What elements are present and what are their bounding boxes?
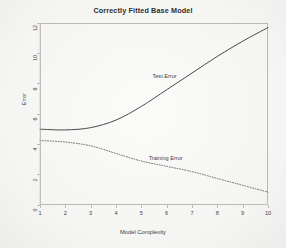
x-tick-label: 3 [85,210,97,216]
tick-mark [91,205,92,208]
y-tick-label: 10 [32,52,38,64]
series-annotation: Test Error [152,73,176,79]
tick-mark [192,205,193,208]
x-tick-label: 9 [237,210,249,216]
tick-mark [40,205,41,208]
tick-mark [141,205,142,208]
y-tick-label: 12 [32,22,38,34]
x-tick-label: 2 [59,210,71,216]
tick-mark [65,205,66,208]
series-line-training-error [40,141,268,193]
tick-mark [217,205,218,208]
x-tick-label: 4 [110,210,122,216]
y-tick-label: 6 [32,113,38,125]
x-tick-label: 5 [135,210,147,216]
y-tick-label: 8 [32,83,38,95]
tick-mark [268,205,269,208]
tick-mark [116,205,117,208]
x-tick-label: 10 [262,210,274,216]
chart-canvas [40,23,268,205]
x-tick-label: 6 [161,210,173,216]
tick-mark [243,205,244,208]
x-tick-label: 1 [34,210,46,216]
tick-mark [167,205,168,208]
series-annotation: Training Error [149,155,183,161]
y-tick-label: 2 [32,174,38,186]
y-tick-label: 4 [32,143,38,155]
x-tick-label: 7 [186,210,198,216]
plot-area: Test ErrorTraining Error [40,23,268,205]
x-tick-label: 8 [211,210,223,216]
chart-screenshot: Correctly Fitted Base Model Error Model … [0,0,286,248]
series-layer [40,23,268,205]
